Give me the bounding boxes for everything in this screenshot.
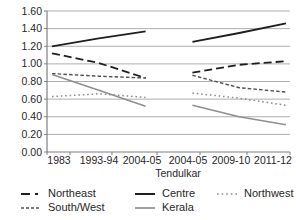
chart-plot-area: 0.000.200.400.600.801.001.201.401.601983… (0, 0, 296, 186)
series-line-centre (52, 31, 146, 46)
legend-swatch-northeast-icon (20, 190, 42, 198)
legend-item-south-west: South/West (20, 201, 134, 214)
legend-swatch-south-west-icon (20, 204, 42, 212)
y-tick-label: 1.20 (22, 40, 43, 52)
x-tick-label: 1983 (47, 154, 71, 166)
legend-label: Centre (162, 187, 195, 200)
legend-item-northeast: Northeast (20, 187, 134, 200)
series-line-kerala (192, 105, 286, 124)
y-tick-label: 1.00 (22, 57, 43, 69)
x-tick-label: 1993-94 (80, 154, 119, 166)
legend-label: Northwest (244, 187, 294, 200)
legend-item-centre: Centre (134, 187, 216, 200)
y-tick-label: 0.00 (22, 146, 43, 158)
poverty-ratio-line-chart: 0.000.200.400.600.801.001.201.401.601983… (0, 0, 296, 220)
y-tick-label: 0.60 (22, 93, 43, 105)
series-line-centre (192, 23, 286, 42)
x-tick-label: 2004-05 (169, 154, 208, 166)
y-tick-label: 1.40 (22, 22, 43, 34)
legend-label: Northeast (48, 187, 96, 200)
x-tick-label: 2009-10 (212, 154, 251, 166)
y-tick-label: 1.60 (22, 5, 43, 17)
legend-label: Kerala (162, 201, 194, 214)
series-line-northeast (192, 61, 286, 72)
legend-swatch-kerala-icon (134, 204, 156, 212)
x-axis-title: Tendulkar (155, 167, 201, 179)
series-line-northwest (52, 94, 146, 98)
x-tick-label: 2004-05 (123, 154, 162, 166)
series-line-kerala (52, 75, 146, 107)
legend-item-northwest: Northwest (216, 187, 294, 200)
series-line-south-west (192, 75, 286, 92)
legend-swatch-northwest-icon (216, 190, 238, 198)
x-tick-label: 2011-12 (254, 154, 292, 166)
legend-label: South/West (48, 201, 105, 214)
y-tick-label: 0.40 (22, 110, 43, 122)
legend-swatch-centre-icon (134, 190, 156, 198)
legend-item-kerala: Kerala (134, 201, 216, 214)
chart-legend: NortheastCentreNorthwestSouth/WestKerala (20, 187, 294, 214)
y-tick-label: 0.20 (22, 128, 43, 140)
series-line-south-west (52, 74, 146, 78)
y-tick-label: 0.80 (22, 75, 43, 87)
